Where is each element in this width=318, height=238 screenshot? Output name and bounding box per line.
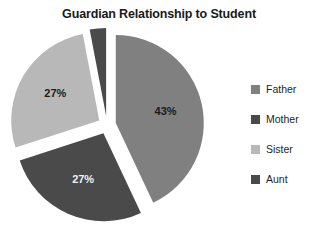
pie-slice-value-sister: 27% [44, 87, 66, 99]
legend-item-label: Father [266, 84, 296, 95]
plot-area: 43%27%27%3% [4, 24, 226, 236]
pie-slice-value-mother: 27% [72, 173, 94, 185]
chart-title: Guardian Relationship to Student [0, 7, 318, 21]
legend-item-label: Sister [266, 144, 293, 155]
legend-item-label: Mother [266, 114, 299, 125]
legend-item-sister[interactable]: Sister [251, 134, 315, 164]
pie-slices [11, 28, 204, 221]
legend-swatch-icon [251, 85, 260, 94]
legend-swatch-icon [251, 145, 260, 154]
legend-item-mother[interactable]: Mother [251, 104, 315, 134]
legend-item-father[interactable]: Father [251, 74, 315, 104]
chart-legend: FatherMotherSisterAunt [251, 74, 315, 194]
legend-item-label: Aunt [266, 174, 288, 185]
legend-item-aunt[interactable]: Aunt [251, 164, 315, 194]
pie-slice-value-father: 43% [155, 105, 177, 117]
pie-svg: 43%27%27%3% [4, 24, 226, 236]
pie-chart-figure: Guardian Relationship to Student 43%27%2… [0, 0, 318, 238]
legend-swatch-icon [251, 175, 260, 184]
pie-slice-father[interactable] [116, 35, 204, 203]
legend-swatch-icon [251, 115, 260, 124]
